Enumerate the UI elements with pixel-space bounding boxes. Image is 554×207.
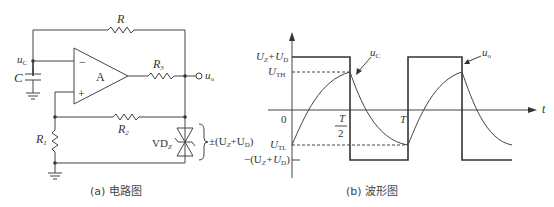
capacitor-voltage-uc (292, 72, 512, 145)
label-zero: 0 (281, 113, 287, 125)
y-axis-arrow (289, 32, 295, 41)
label-period: T (400, 113, 407, 125)
label-half-period-num: T (339, 112, 346, 124)
label-uc-curve: uC (370, 46, 381, 60)
output-terminal (196, 73, 202, 79)
label-plus: + (78, 87, 85, 101)
t-axis-arrow (528, 107, 537, 113)
label-r2: R2 (117, 122, 129, 137)
label-high-level: UZ+UD (256, 50, 288, 64)
label-utl: UTL (270, 138, 287, 152)
label-t: t (542, 102, 546, 116)
circuit-diagram: R R3 R2 R1 C A − + uC uo VDZ ±(UZ+UD) (a… (14, 12, 254, 198)
label-r3: R3 (152, 57, 164, 72)
label-r: R (116, 12, 125, 26)
label-minus: − (79, 55, 86, 69)
diagram-canvas: R R3 R2 R1 C A − + uC uo VDZ ±(UZ+UD) (a… (0, 0, 554, 207)
label-half-period-den: 2 (338, 127, 344, 139)
label-vdz: VDZ (152, 137, 172, 151)
figure: R R3 R2 R1 C A − + uC uo VDZ ±(UZ+UD) (a… (0, 0, 554, 207)
label-uc: uC (17, 53, 28, 67)
label-c: C (14, 70, 23, 85)
caption-circuit: (a) 电路图 (90, 185, 142, 198)
label-uo-curve: uo (482, 46, 492, 60)
label-a: A (96, 70, 105, 84)
label-uo: uo (205, 69, 215, 83)
waveform-chart: t 0 T T 2 uC uo UZ+UD UTH UTL −(UZ+UD) (… (244, 32, 546, 198)
brace (199, 124, 208, 160)
caption-waveform: (b) 波形图 (346, 185, 398, 198)
label-low-level: −(UZ+UD) (244, 153, 290, 167)
label-uth: UTH (268, 65, 285, 79)
label-r1: R1 (35, 132, 47, 147)
label-clamp-voltage: ±(UZ+UD) (209, 135, 254, 149)
